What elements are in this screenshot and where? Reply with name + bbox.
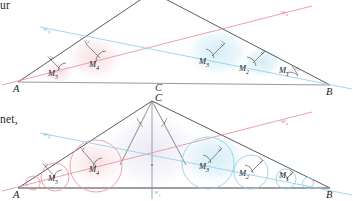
m4-sub-lower: 4: [96, 170, 99, 176]
margin-text-bottom: net,: [0, 113, 18, 125]
center-label-M4-upper: M4: [89, 59, 99, 71]
figure-canvas: ur net, A B C wα wβ M1 M2 M3 M4 M5 A B C…: [0, 0, 353, 201]
center-label-M1-lower: M1: [279, 170, 289, 182]
center-label-M1-upper: M1: [279, 65, 289, 77]
vertex-label-A-upper: A: [13, 83, 19, 94]
bisector-label-w-gamma-lower: wγ: [154, 188, 161, 197]
center-label-M5-upper: M5: [48, 68, 58, 80]
center-label-M2-lower: M2: [239, 168, 249, 180]
m5-sub: 5: [55, 74, 58, 80]
m3-sub-lower: 3: [206, 167, 209, 173]
m2-sub: 2: [246, 69, 249, 75]
w-beta-sub-lower: β: [48, 134, 51, 139]
m1-sub-lower: 1: [286, 176, 289, 182]
bisector-label-w-alpha-lower: wα: [281, 117, 288, 126]
m4-sub: 4: [96, 65, 99, 71]
center-label-M3-lower: M3: [199, 161, 209, 173]
center-label-M5-lower: M5: [48, 173, 58, 185]
w-alpha-sub-lower: α: [286, 121, 289, 126]
w-alpha-sub: α: [286, 12, 289, 17]
circle-M0: [303, 178, 314, 189]
m5-sub-lower: 5: [55, 179, 58, 185]
vertex-label-B-lower: B: [326, 189, 332, 200]
vertex-label-B-upper: B: [326, 86, 332, 97]
bisector-label-w-beta-lower: wβ: [43, 130, 50, 139]
m2-sub-lower: 2: [246, 174, 249, 180]
vertex-label-C-lower: C: [155, 92, 162, 103]
w-beta-sub: β: [48, 29, 51, 34]
vertex-label-A-lower: A: [13, 189, 19, 200]
w-gamma-sub: γ: [159, 192, 161, 197]
m3-sub: 3: [206, 62, 209, 68]
center-label-M2-upper: M2: [239, 63, 249, 75]
margin-text-top: ur: [0, 0, 10, 11]
center-label-M4-lower: M4: [89, 164, 99, 176]
bisector-label-w-alpha-upper: wα: [281, 8, 288, 17]
center-label-M3-upper: M3: [199, 56, 209, 68]
bisector-label-w-beta-upper: wβ: [43, 25, 50, 34]
geometry-svg: [0, 0, 353, 201]
m1-sub: 1: [286, 71, 289, 77]
